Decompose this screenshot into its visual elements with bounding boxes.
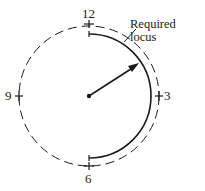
radius-arrow-shaft (89, 67, 134, 96)
callout-required-locus: Required locus (130, 18, 205, 43)
label-12: 12 (82, 7, 95, 20)
required-locus-arc (89, 34, 151, 158)
label-9: 9 (5, 89, 12, 102)
label-6: 6 (85, 172, 92, 185)
label-3: 3 (164, 89, 171, 102)
